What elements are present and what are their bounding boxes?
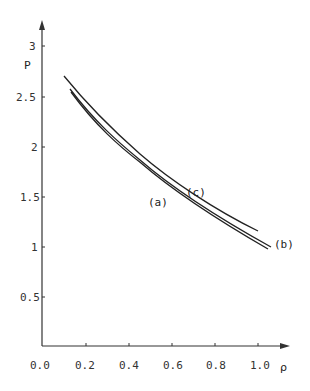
y-axis: [39, 20, 45, 346]
curve-a: [71, 92, 268, 249]
y-tick-label: 0.5: [20, 291, 40, 304]
chart: 0.5 1 1.5 2 2.5 3 P 0.0 0.2 0.4 0.6 0.8 …: [0, 0, 310, 391]
y-axis-title: P: [24, 59, 31, 72]
curve-label-b: (b): [274, 238, 294, 251]
x-tick-label: 0.4: [119, 359, 139, 372]
y-tick-label: 3: [29, 40, 36, 53]
curve-label-a: (a): [148, 196, 168, 209]
x-tick-label: 0.6: [163, 359, 183, 372]
y-tick-label: 2: [31, 141, 38, 154]
y-tick-label: 2.5: [16, 91, 36, 104]
x-tick-label: 1.0: [250, 359, 270, 372]
x-tick-label: 0.2: [75, 359, 95, 372]
x-axis: [42, 343, 290, 349]
y-tick-label: 1: [31, 241, 38, 254]
y-tick-label: 1.5: [20, 191, 40, 204]
x-tick-label: 0.8: [206, 359, 226, 372]
curve-label-c: (c): [186, 186, 206, 199]
x-axis-arrow-icon: [280, 343, 290, 349]
x-axis-title: ρ: [280, 361, 287, 374]
x-tick-label: 0.0: [30, 359, 50, 372]
y-axis-arrow-icon: [39, 20, 45, 30]
curve-b: [70, 89, 271, 247]
